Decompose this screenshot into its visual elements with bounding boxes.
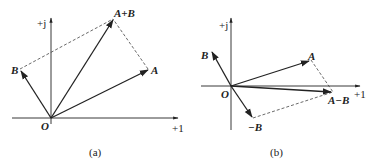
vector-a-label-a: A <box>150 64 158 76</box>
caption-a: (a) <box>89 146 102 159</box>
vector-a-label-b: A <box>307 50 315 62</box>
vector-diff-b <box>231 86 331 92</box>
vector-sum-label-a: A+B <box>113 7 135 19</box>
caption-b: (b) <box>270 146 283 159</box>
vector-negb-b <box>231 86 252 117</box>
origin-label-b: O <box>221 88 229 100</box>
vector-a-b <box>231 61 309 86</box>
parallelogram-dash-a-to-diff <box>311 60 333 92</box>
real-axis-label-a: +1 <box>172 122 184 134</box>
vector-b-label-a: B <box>10 64 18 76</box>
vector-b-b <box>212 52 231 86</box>
origin-label-a: O <box>41 120 49 132</box>
vector-b-a <box>21 71 51 118</box>
parallelogram-dash-negb-to-diff <box>253 92 333 118</box>
parallelogram-dash-b-to-sum <box>20 19 113 69</box>
vector-b-label-b: B <box>200 49 208 61</box>
imag-axis-label-b: +j <box>219 19 228 31</box>
phasor-diagrams: +j +1 O B A A+B (a) +j +1 O B A −B A−B (… <box>0 0 369 161</box>
diagram-a: +j +1 O B A A+B (a) <box>10 7 184 159</box>
vector-diff-label-b: A−B <box>327 94 349 106</box>
diagram-b: +j +1 O B A −B A−B (b) <box>200 18 366 159</box>
vector-negb-label-b: −B <box>248 121 262 133</box>
real-axis-label-b: +1 <box>354 88 366 100</box>
parallelogram-dash-a-to-sum <box>113 19 148 69</box>
imag-axis-label-a: +j <box>37 17 46 29</box>
